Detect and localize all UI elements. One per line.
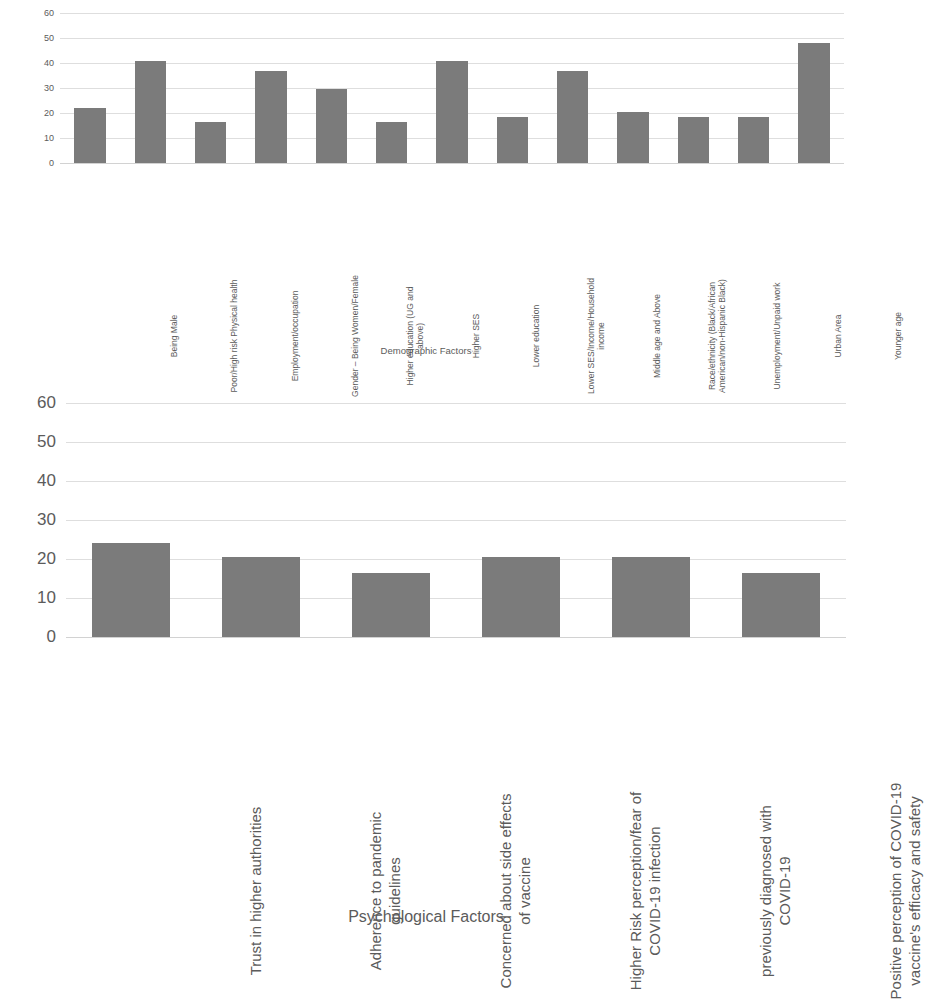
y-tick-label: 0 <box>49 158 54 168</box>
bar <box>678 117 709 163</box>
demographic-factors-chart: Percentage of studies 0102030405060 Bein… <box>0 0 852 372</box>
bar <box>222 557 300 637</box>
y-axis-ticks-demographic: 0102030405060 <box>14 13 54 163</box>
bar <box>742 573 820 637</box>
x-tick-label: Younger age <box>894 251 904 421</box>
x-tick-label: previously diagnosed with COVID-19 <box>757 766 795 1003</box>
plot-area-psychological: 0102030405060 <box>66 403 846 637</box>
x-axis-title-demographic: Demographic Factors <box>0 345 852 356</box>
bar <box>255 71 286 164</box>
y-tick-label: 0 <box>47 627 56 647</box>
y-tick-label: 40 <box>37 471 56 491</box>
bar <box>482 557 560 637</box>
x-tick-label: Concerned about side effects of vaccine <box>497 766 535 1003</box>
y-tick-label: 60 <box>44 8 54 18</box>
y-tick-label: 60 <box>37 393 56 413</box>
x-tick-label: Higher Risk perception/fear of COVID-19 … <box>627 766 665 1003</box>
axis-baseline <box>66 637 846 638</box>
bar <box>557 71 588 164</box>
x-tick-label: Adherence to pandemic guidelines <box>367 766 405 1003</box>
y-tick-label: 50 <box>37 432 56 452</box>
y-tick-label: 10 <box>44 133 54 143</box>
bar <box>316 89 347 163</box>
x-axis-title-psychological: Psychological Factors <box>0 908 852 926</box>
bar <box>92 543 170 637</box>
plot-area-demographic: 0102030405060 <box>60 13 844 163</box>
bars-demographic <box>60 13 844 163</box>
y-tick-label: 20 <box>37 549 56 569</box>
bar <box>376 122 407 163</box>
y-tick-label: 10 <box>37 588 56 608</box>
bar <box>738 117 769 163</box>
bar <box>612 557 690 637</box>
bar <box>195 122 226 163</box>
bar <box>436 61 467 163</box>
bar <box>352 573 430 637</box>
axis-baseline <box>60 163 844 164</box>
x-tick-label: Trust in higher authorities <box>247 766 266 1003</box>
y-tick-label: 40 <box>44 58 54 68</box>
bar <box>74 108 105 164</box>
y-tick-label: 30 <box>44 83 54 93</box>
bar <box>798 43 829 163</box>
y-tick-label: 30 <box>37 510 56 530</box>
y-tick-label: 20 <box>44 108 54 118</box>
bar <box>497 117 528 163</box>
bars-psychological <box>66 403 846 637</box>
bar <box>617 112 648 163</box>
y-tick-label: 50 <box>44 33 54 43</box>
y-axis-ticks-psychological: 0102030405060 <box>10 403 56 637</box>
psychological-factors-chart: Percentage of studies 0102030405060 Trus… <box>0 385 852 962</box>
bar <box>135 61 166 163</box>
x-tick-label: Positive perception of COVID-19 vaccine'… <box>887 766 925 1003</box>
